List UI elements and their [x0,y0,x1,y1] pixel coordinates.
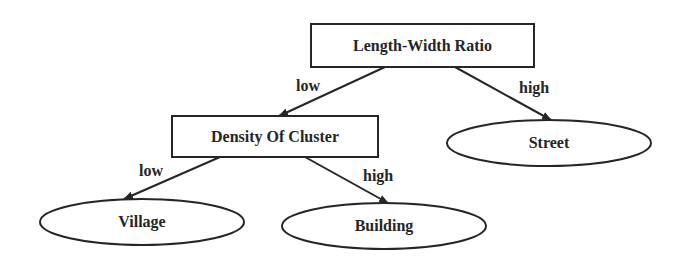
edge-label-density-low: low [139,162,163,179]
node-village: Village [40,199,244,245]
edge-density-low: low [124,157,220,199]
node-building-label: Building [355,217,414,235]
edge-root-high: high [455,67,551,120]
node-street: Street [447,120,651,166]
node-density: Density Of Cluster [172,116,378,157]
edge-label-root-low: low [296,77,320,94]
edge-root-low: low [279,67,385,116]
node-density-label: Density Of Cluster [211,128,339,146]
decision-tree-diagram: low high low high Length-Width Ratio Den… [0,0,686,268]
node-building: Building [282,203,486,249]
edge-arrow-root-to-density [279,67,385,116]
edge-density-high: high [305,157,393,203]
edge-label-root-high: high [519,79,549,97]
node-village-label: Village [118,213,165,231]
node-street-label: Street [529,134,570,151]
node-root-label: Length-Width Ratio [353,37,492,55]
diagram-canvas: low high low high Length-Width Ratio Den… [0,0,686,268]
edge-label-density-high: high [363,167,393,185]
node-root: Length-Width Ratio [311,24,534,67]
